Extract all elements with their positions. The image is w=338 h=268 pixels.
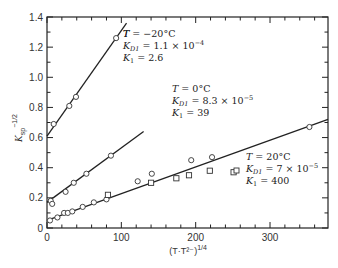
y-tick-label: 0.2	[29, 192, 43, 203]
square-marker	[186, 173, 191, 178]
x-tick-label: 100	[113, 232, 130, 243]
annotation-1: T = −20°CKD1 = 1.1 × 10−4K1 = 2.6	[122, 28, 204, 65]
circle-marker	[51, 121, 56, 126]
circle-marker	[135, 179, 140, 184]
y-tick-label: 0.6	[29, 132, 43, 143]
circle-marker	[209, 155, 214, 160]
x-axis-title: (T·T²⁻)1/4	[169, 244, 207, 256]
square-marker	[105, 192, 110, 197]
circle-marker	[47, 218, 52, 223]
svg-text:K1 = 400: K1 = 400	[245, 175, 289, 188]
circle-marker	[307, 124, 312, 129]
annotations: T = −20°CKD1 = 1.1 × 10−4K1 = 2.6T = 0°C…	[122, 28, 318, 188]
svg-text:T = 0°C: T = 0°C	[172, 83, 210, 94]
square-marker	[174, 176, 179, 181]
circle-marker	[71, 180, 76, 185]
y-tick-label: 1.0	[29, 72, 43, 83]
y-axis-title: Ksp−1/2	[11, 114, 27, 143]
circle-marker	[73, 94, 78, 99]
svg-text:(T·T²⁻)1/4: (T·T²⁻)1/4	[169, 244, 207, 256]
y-tick-label: 0.8	[29, 102, 43, 113]
annotation-3: T = 20°CKD1 = 7 × 10−5K1 = 400	[234, 151, 318, 188]
y-tick-label: 1.4	[29, 12, 43, 23]
annotation-2: T = 0°CKD1 = 8.3 × 10−5K1 = 39	[171, 83, 253, 120]
svg-text:KD1 = 8.3 × 10−5: KD1 = 8.3 × 10−5	[171, 94, 253, 108]
circle-marker	[67, 103, 72, 108]
svg-text:K1 = 2.6: K1 = 2.6	[122, 52, 163, 65]
data-markers	[47, 36, 312, 224]
svg-text:Ksp−1/2: Ksp−1/2	[11, 114, 27, 143]
circle-marker	[55, 215, 60, 220]
fit-lines	[47, 23, 328, 220]
circle-marker	[189, 158, 194, 163]
x-tick-label: 200	[187, 232, 204, 243]
chart: 010020030000.20.40.60.81.01.21.4 T Ksp−1…	[0, 0, 338, 268]
circle-marker	[70, 209, 75, 214]
circle-marker	[50, 201, 55, 206]
svg-text:T = 20°C: T = 20°C	[246, 151, 290, 162]
fit-line	[47, 132, 144, 203]
y-tick-label: 1.2	[29, 42, 43, 53]
svg-text:T = −20°C: T = −20°C	[123, 28, 175, 39]
y-tick-label: 0.4	[29, 162, 43, 173]
circle-marker	[108, 153, 113, 158]
x-tick-label: 300	[262, 232, 279, 243]
square-marker	[148, 180, 153, 185]
circle-marker	[80, 204, 85, 209]
y-tick-label: 0	[37, 223, 43, 234]
circle-marker	[91, 200, 96, 205]
circle-marker	[114, 36, 119, 41]
square-marker	[207, 168, 212, 173]
svg-text:KD1 = 7 × 10−5: KD1 = 7 × 10−5	[245, 162, 318, 176]
circle-marker	[149, 171, 154, 176]
svg-text:KD1 = 1.1 × 10−4: KD1 = 1.1 × 10−4	[122, 39, 204, 53]
square-legend-icon	[234, 168, 239, 173]
svg-text:K1 = 39: K1 = 39	[171, 107, 209, 120]
circle-marker	[63, 189, 68, 194]
circle-marker	[84, 171, 89, 176]
x-tick-label: 0	[44, 232, 50, 243]
